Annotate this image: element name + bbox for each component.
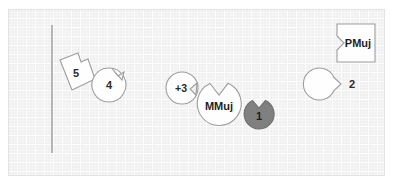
node-5-label: 5 bbox=[73, 67, 79, 79]
node-4-label: 4 bbox=[106, 79, 113, 91]
node-5[interactable]: 5 bbox=[60, 53, 95, 90]
node-plus3-label: +3 bbox=[175, 82, 187, 94]
node-1-label: 1 bbox=[256, 110, 262, 122]
node-pmuj[interactable]: PMuj bbox=[337, 24, 375, 62]
node-4[interactable]: 4 bbox=[92, 68, 126, 102]
node-1[interactable]: 1 bbox=[244, 100, 274, 129]
node-2-label: 2 bbox=[349, 78, 355, 90]
node-mmuj[interactable]: MMuj bbox=[197, 83, 241, 125]
node-2-shape bbox=[303, 68, 341, 100]
shapes-layer: 5 4 +3 MMuj 1 PMuj bbox=[0, 0, 393, 185]
node-2[interactable]: 2 bbox=[303, 68, 355, 100]
figure-canvas: 5 4 +3 MMuj 1 PMuj bbox=[0, 0, 393, 185]
node-pmuj-label: PMuj bbox=[345, 37, 371, 49]
node-plus3[interactable]: +3 bbox=[166, 72, 198, 104]
node-mmuj-label: MMuj bbox=[205, 100, 233, 112]
